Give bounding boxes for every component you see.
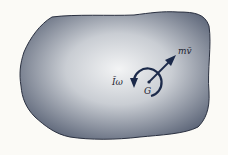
center-of-mass-dot bbox=[147, 80, 150, 83]
rigid-body-shape bbox=[20, 12, 210, 140]
label-angular-momentum: Īω bbox=[111, 76, 124, 87]
label-momentum: mv̄ bbox=[178, 46, 192, 56]
rigid-body-momentum-diagram: mv̄ Īω G bbox=[0, 0, 228, 155]
label-center-of-mass: G bbox=[144, 86, 151, 96]
